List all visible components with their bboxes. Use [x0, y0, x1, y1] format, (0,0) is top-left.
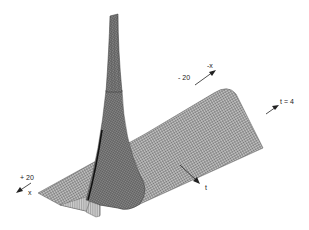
surface-plane: [38, 89, 263, 212]
label-t-end: t = 4: [280, 98, 294, 105]
neg-x-arrowhead-icon: [209, 70, 216, 76]
pos-x-arrowhead-icon: [16, 187, 23, 193]
surface-plot: - 20 -x t = 4 + 20 x t: [0, 0, 309, 230]
label-x-neg-value: - 20: [178, 74, 190, 81]
label-x-neg-axis: -x: [207, 62, 213, 69]
label-t-axis: t: [205, 184, 207, 191]
neg-x-arrow: [195, 72, 213, 85]
label-x-pos-axis: x: [28, 189, 32, 196]
label-x-pos-value: + 20: [20, 174, 34, 181]
